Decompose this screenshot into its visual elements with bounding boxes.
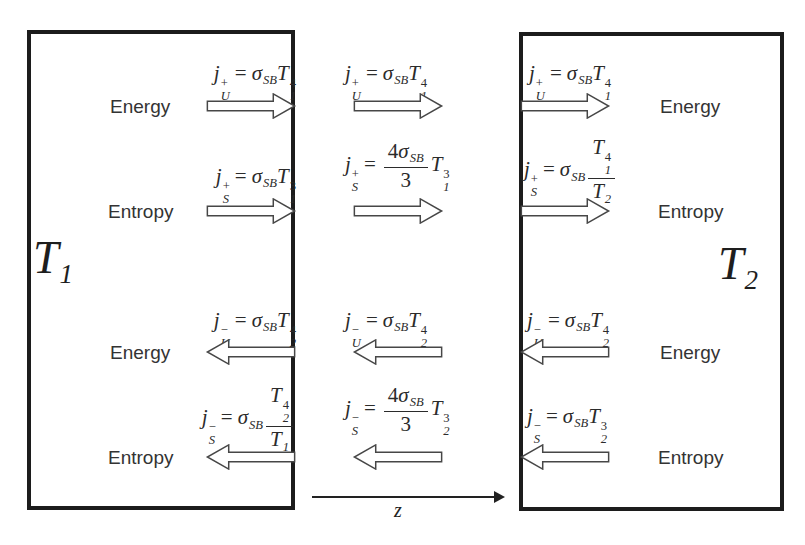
flux-arrow-left-icon: [205, 444, 297, 470]
flux-formula: j−S=4σSB3T32: [345, 384, 450, 438]
flux-formula: j+S=σSBT41T2: [524, 136, 618, 207]
flux-arrow-left-icon: [205, 339, 297, 365]
flux-label-entropy: Entropy: [658, 201, 723, 223]
flux-arrow-right-icon: [352, 93, 444, 119]
temperature-symbol: T: [718, 238, 744, 289]
flux-label-energy: Energy: [660, 342, 720, 364]
flux-arrow-right-icon: [352, 198, 444, 224]
radiative-flux-diagram: T1 T2 Energy Entropy Energy Entropy Ener…: [0, 0, 805, 545]
flux-arrow-right-icon: [205, 198, 297, 224]
flux-arrow-left-icon: [519, 339, 611, 365]
flux-arrow-right-icon: [519, 198, 611, 224]
flux-arrow-left-icon: [519, 444, 611, 470]
flux-label-entropy: Entropy: [658, 447, 723, 469]
z-axis-line: [312, 496, 496, 498]
temperature-subscript: 2: [745, 265, 759, 295]
plate-left-temperature-label: T1: [33, 232, 73, 300]
flux-label-energy: Energy: [660, 96, 720, 118]
flux-arrow-left-icon: [352, 339, 444, 365]
temperature-symbol: T: [33, 232, 59, 283]
temperature-subscript: 1: [60, 259, 74, 289]
flux-arrow-right-icon: [205, 93, 297, 119]
flux-arrow-left-icon: [352, 444, 444, 470]
z-axis-arrowhead-icon: [494, 491, 505, 503]
plate-right-temperature-label: T2: [718, 238, 758, 306]
flux-arrow-right-icon: [519, 93, 611, 119]
flux-formula: j+S=4σSB3T31: [345, 140, 450, 194]
z-axis-label: z: [394, 499, 402, 522]
flux-formula: j−S=σSBT32: [527, 401, 607, 446]
